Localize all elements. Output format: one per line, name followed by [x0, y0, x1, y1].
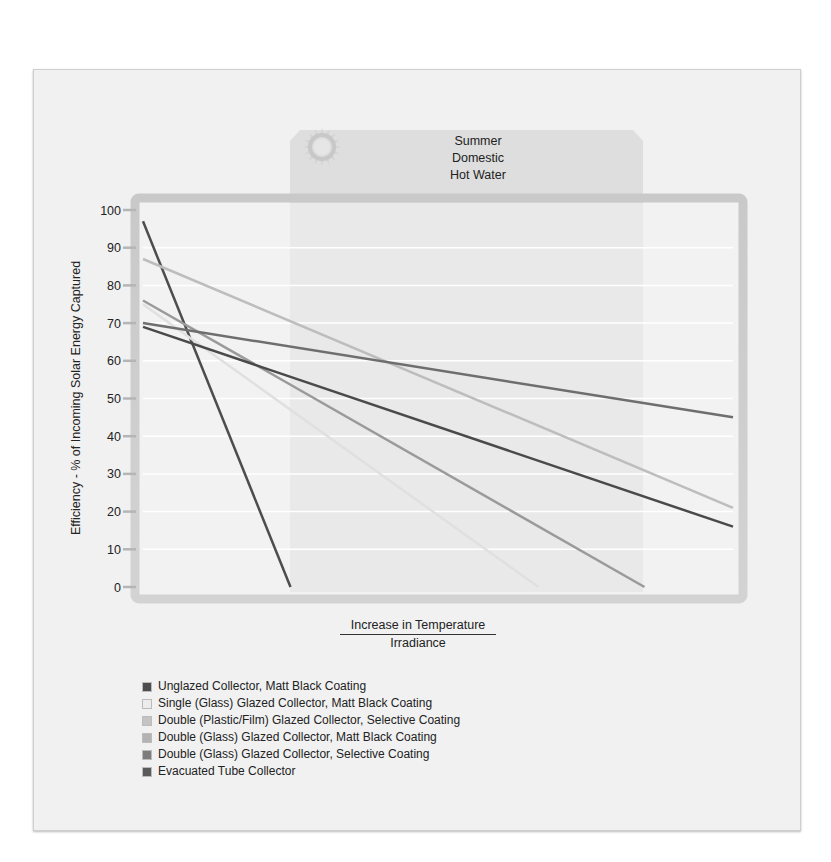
y-axis-label: Efficiency - % of Incoming Solar Energy … [69, 261, 83, 535]
legend-item: Double (Plastic/Film) Glazed Collector, … [142, 712, 460, 729]
legend-label: Evacuated Tube Collector [158, 763, 295, 780]
legend-swatch [142, 716, 152, 726]
legend-swatch [142, 767, 152, 777]
legend-swatch [142, 733, 152, 743]
y-tick-label: 10 [107, 543, 121, 557]
y-tick-label: 60 [107, 354, 121, 368]
legend-label: Double (Glass) Glazed Collector, Selecti… [158, 746, 429, 763]
legend-swatch [142, 750, 152, 760]
x-axis-label: Increase in Temperature Irradiance [340, 618, 496, 650]
x-axis-label-denominator: Irradiance [340, 635, 496, 650]
y-tick-label: 40 [107, 430, 121, 444]
panel-title-line-1: Summer [378, 133, 578, 150]
y-tick-label: 70 [107, 317, 121, 331]
legend-item: Evacuated Tube Collector [142, 763, 460, 780]
legend-swatch [142, 699, 152, 709]
sun-icon [303, 128, 341, 166]
legend-item: Double (Glass) Glazed Collector, Matt Bl… [142, 729, 460, 746]
legend-item: Double (Glass) Glazed Collector, Selecti… [142, 746, 460, 763]
legend-label: Double (Glass) Glazed Collector, Matt Bl… [158, 729, 437, 746]
panel-title-line-3: Hot Water [378, 167, 578, 184]
legend: Unglazed Collector, Matt Black Coating S… [142, 678, 460, 780]
y-tick-label: 50 [107, 392, 121, 406]
panel-title: Summer Domestic Hot Water [378, 133, 578, 184]
legend-item: Single (Glass) Glazed Collector, Matt Bl… [142, 695, 460, 712]
y-tick-label: 100 [100, 204, 121, 218]
legend-label: Double (Plastic/Film) Glazed Collector, … [158, 712, 460, 729]
y-tick-label: 80 [107, 279, 121, 293]
legend-label: Single (Glass) Glazed Collector, Matt Bl… [158, 695, 432, 712]
y-tick-label: 90 [107, 241, 121, 255]
y-tick-label: 20 [107, 505, 121, 519]
panel-title-line-2: Domestic [378, 150, 578, 167]
y-tick-label: 0 [114, 581, 121, 595]
legend-item: Unglazed Collector, Matt Black Coating [142, 678, 460, 695]
legend-swatch [142, 682, 152, 692]
legend-label: Unglazed Collector, Matt Black Coating [158, 678, 366, 695]
x-axis-label-numerator: Increase in Temperature [340, 618, 496, 635]
y-tick-label: 30 [107, 467, 121, 481]
